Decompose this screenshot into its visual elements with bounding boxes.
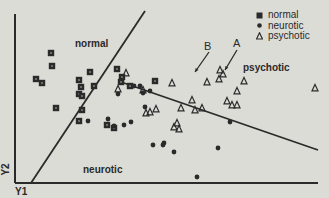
legend-item-normal: normal [256, 10, 310, 21]
neurotic-point [129, 120, 134, 125]
neurotic-point [132, 84, 137, 89]
psychotic-point [153, 105, 159, 111]
psychotic-point [204, 78, 210, 84]
psychotic-point [234, 101, 240, 107]
psychotic-point [220, 70, 226, 76]
psychotic-point [123, 69, 129, 75]
neurotic-point [143, 105, 148, 110]
y-axis-label: Y2 [0, 163, 11, 175]
legend-label: psychotic [268, 31, 310, 42]
legend-label: normal [268, 10, 299, 21]
square-marker-icon [256, 12, 263, 19]
psychotic-point [147, 108, 153, 114]
x-axis-label: Y1 [15, 186, 27, 197]
region-label-neurotic: neurotic [83, 164, 122, 175]
psychotic-point [234, 87, 240, 93]
neurotic-point [195, 175, 200, 180]
neurotic-point [112, 124, 117, 129]
boundary-normal-neurotic [31, 11, 145, 183]
triangle-marker-icon [256, 32, 263, 40]
neurotic-point [228, 120, 233, 125]
legend-item-psychotic: psychotic [256, 31, 310, 42]
psychotic-point [189, 96, 195, 102]
psychotic-point [241, 77, 247, 83]
psychotic-point [312, 84, 318, 90]
psychotic-point [178, 104, 184, 110]
neurotic-point [86, 119, 91, 124]
annotation-a: A [233, 37, 240, 49]
psychotic-point [169, 79, 175, 85]
neurotic-point [138, 84, 143, 89]
annotation-arrows [195, 50, 237, 72]
circle-marker-icon [256, 22, 263, 29]
region-label-normal: normal [75, 38, 108, 49]
neurotic-point [148, 89, 153, 94]
neurotic-point [122, 123, 127, 128]
psychotic-point [171, 123, 177, 129]
neurotic-point [106, 117, 111, 122]
legend: normal neurotic psychotic [256, 10, 310, 42]
annotation-b: B [204, 40, 211, 52]
neurotic-point [151, 143, 156, 148]
neurotic-point [216, 146, 221, 151]
psychotic-point [115, 85, 121, 91]
neurotic-point [172, 150, 177, 155]
neurotic-point [161, 143, 166, 148]
psychotic-point [224, 97, 230, 103]
arrow-b [195, 52, 209, 72]
region-label-psychotic: psychotic [243, 62, 290, 73]
